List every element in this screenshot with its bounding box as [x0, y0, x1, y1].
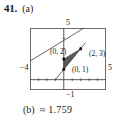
part-a-label: (a): [22, 3, 33, 14]
plot-canvas: [30, 28, 106, 90]
textbook-figure: 41. (a): [0, 0, 135, 123]
point-marker-0-2: [62, 57, 65, 61]
point-marker-2-3: [79, 47, 82, 51]
problem-number: 41.: [4, 2, 17, 14]
point-label-2-3: (2, 3): [89, 50, 105, 58]
y-axis-max-label: 5: [66, 19, 70, 27]
point-marker-0-1: [62, 68, 65, 72]
x-axis-max-label: 5: [108, 64, 112, 72]
x-axis-min-label: −4: [20, 64, 29, 72]
point-label-0-1: (0, 1): [72, 66, 88, 74]
part-b-value: ≈ 1.759: [40, 104, 73, 115]
graph-plot: [30, 28, 106, 90]
part-b-label: (b): [23, 104, 35, 115]
figure-header: 41. (a): [4, 2, 33, 14]
point-label-0-2: (0, 2): [50, 48, 66, 56]
part-b-answer: (b) ≈ 1.759: [23, 104, 72, 115]
y-axis-min-label: −1: [66, 91, 75, 99]
